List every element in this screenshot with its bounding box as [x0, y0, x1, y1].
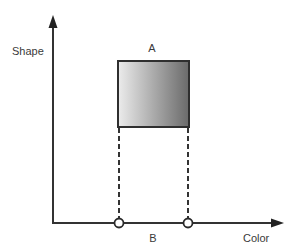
color-shape-diagram: Shape Color A B [0, 0, 295, 251]
projection-marker-right [184, 219, 193, 228]
y-axis-label: Shape [12, 45, 44, 57]
x-axis-label: Color [243, 232, 270, 244]
interval-b-label: B [149, 232, 156, 244]
region-a-box [118, 61, 189, 127]
y-axis-arrow-icon [49, 15, 58, 28]
x-axis-arrow-icon [271, 219, 284, 228]
region-a-label: A [148, 42, 156, 54]
projection-marker-left [115, 219, 124, 228]
